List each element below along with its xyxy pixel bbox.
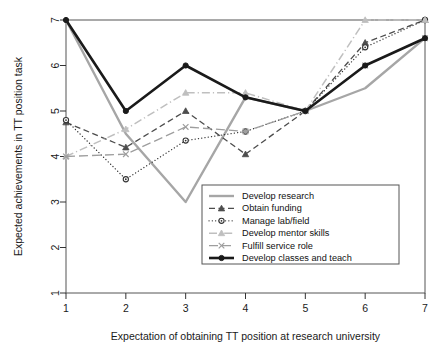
data-point <box>219 255 224 260</box>
x-axis-title: Expectation of obtaining TT position at … <box>111 330 381 342</box>
series-1 <box>63 17 428 157</box>
data-point-center <box>125 178 127 180</box>
y-tick-label: 2 <box>49 244 61 250</box>
chart-container: 12345671234567Expectation of obtaining T… <box>0 0 443 355</box>
series-line <box>66 20 425 157</box>
legend-item-label: Develop research <box>242 191 314 201</box>
legend-item-label: Develop classes and teach <box>242 253 352 263</box>
line-chart: 12345671234567Expectation of obtaining T… <box>0 0 443 355</box>
legend-item-label: Obtain funding <box>242 203 302 213</box>
y-tick-label: 7 <box>49 17 61 23</box>
y-axis-title: Expected achievements in TT position tas… <box>12 56 24 256</box>
x-tick-label: 3 <box>183 302 189 314</box>
series-line <box>66 20 425 202</box>
legend-item-label: Fulfill service role <box>242 241 313 251</box>
data-point <box>183 63 188 68</box>
legend: Develop researchObtain fundingManage lab… <box>202 185 399 264</box>
x-tick-label: 4 <box>243 302 249 314</box>
legend-item-label: Manage lab/field <box>242 216 309 226</box>
data-point <box>363 63 368 68</box>
y-tick-label: 1 <box>49 290 61 296</box>
data-point <box>183 124 189 130</box>
series-3 <box>63 17 428 159</box>
x-tick-label: 5 <box>302 302 308 314</box>
data-point-center <box>221 220 223 222</box>
data-point <box>243 95 248 100</box>
data-point-center <box>364 46 366 48</box>
y-tick-label: 4 <box>49 153 61 159</box>
data-point <box>63 17 68 22</box>
x-tick-label: 1 <box>63 302 69 314</box>
x-tick-label: 2 <box>123 302 129 314</box>
series-5 <box>63 17 427 113</box>
data-point <box>303 108 308 113</box>
data-point-center <box>185 140 187 142</box>
y-tick-label: 6 <box>49 62 61 68</box>
data-point <box>123 108 128 113</box>
data-point <box>182 108 188 114</box>
data-point <box>422 36 427 41</box>
data-point-center <box>65 119 67 121</box>
y-tick-label: 5 <box>49 108 61 114</box>
x-tick-label: 7 <box>422 302 428 314</box>
legend-item-label: Develop mentor skills <box>242 228 330 238</box>
y-tick-label: 3 <box>49 199 61 205</box>
x-tick-label: 6 <box>362 302 368 314</box>
series-0 <box>66 20 425 202</box>
